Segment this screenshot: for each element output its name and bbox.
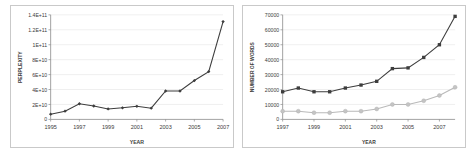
data-point-lower-series-1 xyxy=(296,109,300,113)
xtick-label-4: 2003 xyxy=(159,124,171,130)
ytick-label-2: 20000 xyxy=(265,87,279,93)
data-point-lower-series-2 xyxy=(312,111,316,115)
xtick-label-1: 1997 xyxy=(73,124,85,130)
ytick-label-7: 70000 xyxy=(265,12,279,18)
plot-area-words: 0100002000030000400005000060000700001997… xyxy=(243,6,465,147)
ytick-label-3: 6E+10 xyxy=(32,72,47,78)
perplexity-line-chart: 02E+104E+106E+108E+101E+111.2E+111.4E+11… xyxy=(11,6,233,147)
data-point-perplexity-5 xyxy=(121,106,124,109)
ytick-label-1: 2E+10 xyxy=(32,102,47,108)
ytick-label-0: 0 xyxy=(44,116,47,122)
ytick-label-0: 0 xyxy=(276,116,279,122)
xtick-label-4: 2005 xyxy=(402,124,414,130)
data-point-upper-series-2 xyxy=(312,90,315,93)
xtick-label-2: 1999 xyxy=(102,124,114,130)
data-point-upper-series-7 xyxy=(391,67,394,70)
data-point-lower-series-4 xyxy=(343,109,347,113)
series-line-upper-series xyxy=(283,16,455,91)
ytick-label-4: 40000 xyxy=(265,57,279,63)
plot-area-perplexity: 02E+104E+106E+108E+101E+111.2E+111.4E+11… xyxy=(11,6,233,147)
xtick-label-0: 1997 xyxy=(276,124,288,130)
data-point-lower-series-6 xyxy=(375,107,379,111)
xtick-label-6: 2007 xyxy=(217,124,229,130)
xtick-label-1: 1999 xyxy=(308,124,320,130)
data-point-lower-series-5 xyxy=(359,109,363,113)
ytick-label-5: 50000 xyxy=(265,42,279,48)
ytick-label-5: 1E+11 xyxy=(33,42,48,48)
ytick-label-6: 60000 xyxy=(265,27,279,33)
xtick-label-5: 2005 xyxy=(188,124,200,130)
words-line-chart: 0100002000030000400005000060000700001997… xyxy=(243,6,465,147)
ytick-label-6: 1.2E+11 xyxy=(28,27,47,33)
ytick-label-3: 30000 xyxy=(265,72,279,78)
data-point-upper-series-0 xyxy=(281,90,284,93)
data-point-perplexity-0 xyxy=(49,112,52,115)
data-point-perplexity-6 xyxy=(135,105,138,108)
data-point-upper-series-8 xyxy=(406,66,409,69)
chart-panel-words: 0100002000030000400005000060000700001997… xyxy=(242,5,466,148)
data-point-upper-series-1 xyxy=(297,86,300,89)
x-axis-title: YEAR xyxy=(130,139,145,145)
data-point-perplexity-4 xyxy=(106,107,109,110)
xtick-label-0: 1995 xyxy=(44,124,56,130)
data-point-lower-series-3 xyxy=(328,111,332,115)
y-axis-title: NUMBER OF WORDS xyxy=(250,41,255,92)
xtick-label-3: 2001 xyxy=(131,124,143,130)
data-point-perplexity-12 xyxy=(221,20,224,23)
series-line-perplexity xyxy=(51,22,223,115)
xtick-label-3: 2003 xyxy=(371,124,383,130)
x-axis-title: YEAR xyxy=(362,140,376,145)
ytick-label-4: 8E+10 xyxy=(32,57,47,63)
data-point-upper-series-9 xyxy=(422,56,425,59)
chart-panel-perplexity: 02E+104E+106E+108E+101E+111.2E+111.4E+11… xyxy=(10,5,234,148)
ytick-label-7: 1.4E+11 xyxy=(28,12,47,18)
y-axis-title: PERPLEXITY xyxy=(17,51,23,83)
xtick-label-5: 2007 xyxy=(433,124,445,130)
ytick-label-1: 10000 xyxy=(265,102,279,108)
data-point-lower-series-10 xyxy=(437,94,441,98)
xtick-label-2: 2001 xyxy=(339,124,351,130)
ytick-label-2: 4E+10 xyxy=(32,87,47,93)
data-point-upper-series-6 xyxy=(375,80,378,83)
data-point-upper-series-10 xyxy=(438,43,441,46)
data-point-lower-series-0 xyxy=(281,109,285,113)
data-point-upper-series-11 xyxy=(453,15,456,18)
figure-row: 02E+104E+106E+108E+101E+111.2E+111.4E+11… xyxy=(0,0,476,155)
data-point-lower-series-7 xyxy=(390,102,394,106)
series-line-lower-series xyxy=(283,87,455,112)
data-point-upper-series-3 xyxy=(328,90,331,93)
data-point-upper-series-5 xyxy=(359,83,362,86)
data-point-lower-series-9 xyxy=(422,99,426,103)
data-point-lower-series-8 xyxy=(406,102,410,106)
data-point-lower-series-11 xyxy=(453,85,457,89)
data-point-upper-series-4 xyxy=(344,86,347,89)
